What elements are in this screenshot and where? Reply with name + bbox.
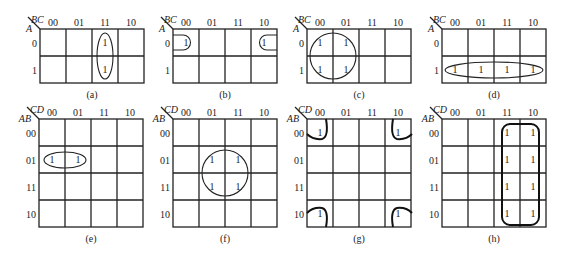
cell-value-one: 1 — [396, 127, 401, 138]
row-label: 10 — [294, 209, 304, 220]
kmap-grid — [307, 29, 411, 83]
row-label: 00 — [294, 128, 304, 139]
row-label: 11 — [26, 182, 36, 193]
kmap-b: BCA000111100111(b) — [158, 14, 277, 101]
column-label: 10 — [528, 17, 538, 28]
column-variable-label: BC — [164, 14, 177, 25]
cell-value-one: 1 — [505, 208, 510, 219]
column-label: 11 — [99, 107, 109, 118]
column-label: 00 — [181, 17, 191, 28]
column-label: 00 — [47, 107, 57, 118]
row-label: 10 — [26, 209, 36, 220]
row-variable-label: AB — [421, 113, 434, 124]
column-label: 01 — [74, 17, 84, 28]
column-label: 10 — [259, 107, 269, 118]
column-label: 11 — [233, 107, 243, 118]
row-label: 11 — [160, 182, 170, 193]
row-label: 1 — [32, 65, 37, 76]
kmap-grid — [39, 119, 143, 227]
column-label: 00 — [450, 107, 460, 118]
column-label: 01 — [476, 107, 486, 118]
column-variable-label: CD — [30, 104, 45, 115]
cell-value-one: 1 — [531, 181, 536, 192]
row-label: 1 — [434, 65, 439, 76]
row-label: 01 — [160, 155, 170, 166]
kmap-a: BCA000111100111(a) — [25, 14, 144, 101]
row-variable-label: A — [292, 23, 300, 34]
row-label: 01 — [429, 155, 439, 166]
column-variable-label: BC — [31, 14, 44, 25]
cell-value-one: 1 — [531, 208, 536, 219]
cell-value-one: 1 — [262, 37, 267, 48]
row-label: 0 — [32, 38, 37, 49]
column-variable-label: BC — [298, 14, 311, 25]
column-label: 01 — [341, 107, 351, 118]
row-variable-label: A — [158, 23, 166, 34]
column-label: 10 — [528, 107, 538, 118]
column-label: 11 — [367, 17, 377, 28]
cell-value-one: 1 — [103, 37, 108, 48]
row-variable-label: AB — [18, 113, 31, 124]
column-label: 00 — [315, 17, 325, 28]
row-label: 00 — [429, 128, 439, 139]
column-label: 11 — [502, 107, 512, 118]
figure-caption: (c) — [353, 89, 364, 101]
kmap-h: CDAB000111100001111011111111(h) — [421, 104, 546, 245]
column-label: 11 — [367, 107, 377, 118]
row-label: 0 — [299, 38, 304, 49]
row-label: 00 — [26, 128, 36, 139]
column-label: 11 — [100, 17, 110, 28]
cell-value-one: 1 — [505, 127, 510, 138]
kmap-d: BCA00011110011111(d) — [427, 14, 546, 101]
row-variable-label: A — [427, 23, 435, 34]
row-label: 00 — [160, 128, 170, 139]
cell-value-one: 1 — [531, 154, 536, 165]
row-label: 1 — [165, 65, 170, 76]
figure-caption: (g) — [353, 233, 365, 245]
cell-value-one: 1 — [505, 154, 510, 165]
column-label: 01 — [207, 17, 217, 28]
cell-value-one: 1 — [318, 208, 323, 219]
column-label: 01 — [207, 107, 217, 118]
column-variable-label: CD — [298, 104, 313, 115]
row-label: 01 — [26, 155, 36, 166]
cell-value-one: 1 — [505, 64, 510, 75]
figure-caption: (e) — [85, 233, 96, 245]
kmap-grid — [173, 119, 277, 227]
kmap-g: CDAB00011110000111101111(g) — [286, 104, 412, 245]
row-label: 10 — [160, 209, 170, 220]
figure-caption: (b) — [219, 89, 231, 101]
cell-value-one: 1 — [479, 64, 484, 75]
row-label: 10 — [429, 209, 439, 220]
column-label: 11 — [502, 17, 512, 28]
column-variable-label: CD — [433, 104, 448, 115]
column-label: 10 — [393, 107, 403, 118]
cell-value-one: 1 — [396, 208, 401, 219]
column-label: 10 — [125, 107, 135, 118]
column-label: 00 — [48, 17, 58, 28]
row-label: 11 — [294, 182, 304, 193]
kmap-e: CDAB000111100001111011(e) — [18, 104, 143, 245]
row-variable-label: A — [25, 23, 33, 34]
cell-value-one: 1 — [76, 154, 81, 165]
figure-caption: (h) — [488, 233, 500, 245]
column-variable-label: CD — [164, 104, 179, 115]
column-label: 00 — [315, 107, 325, 118]
kmap-c: BCA00011110011111(c) — [292, 14, 411, 101]
row-variable-label: AB — [152, 113, 165, 124]
row-label: 01 — [294, 155, 304, 166]
column-label: 00 — [181, 107, 191, 118]
row-label: 1 — [299, 65, 304, 76]
figure-caption: (a) — [86, 89, 97, 101]
figure-caption: (f) — [220, 233, 230, 245]
cell-value-one: 1 — [50, 154, 55, 165]
cell-value-one: 1 — [184, 37, 189, 48]
row-label: 0 — [165, 38, 170, 49]
column-label: 10 — [259, 17, 269, 28]
figure-caption: (d) — [488, 89, 500, 101]
kmap-figure: BCA000111100111(a)BCA000111100111(b)BCA0… — [0, 0, 562, 262]
column-label: 11 — [233, 17, 243, 28]
cell-value-one: 1 — [505, 181, 510, 192]
column-variable-label: BC — [433, 14, 446, 25]
cell-value-one: 1 — [531, 127, 536, 138]
